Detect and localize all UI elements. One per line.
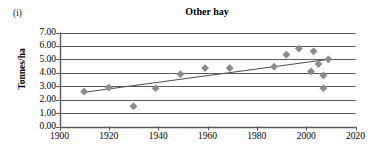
data-point-marker (283, 51, 290, 58)
data-point-marker (201, 64, 208, 71)
data-point-marker (271, 63, 278, 70)
data-point-marker (177, 71, 184, 78)
data-point-marker (130, 103, 137, 110)
y-axis-ticks (56, 34, 60, 128)
chart-figure: (i) Other hay Tonnes/ha 0.001.002.003.00… (0, 0, 381, 162)
data-point-marker (226, 64, 233, 71)
data-point-marker (320, 85, 327, 92)
trend-line (84, 59, 328, 92)
data-point-marker (152, 85, 159, 92)
plot-area (0, 0, 381, 162)
data-point-marker (320, 72, 327, 79)
data-point-marker (315, 60, 322, 67)
data-point-marker (105, 84, 112, 91)
data-point-marker (310, 48, 317, 55)
gridlines (60, 34, 356, 128)
data-point-marker (81, 88, 88, 95)
data-point-marker (325, 56, 332, 63)
